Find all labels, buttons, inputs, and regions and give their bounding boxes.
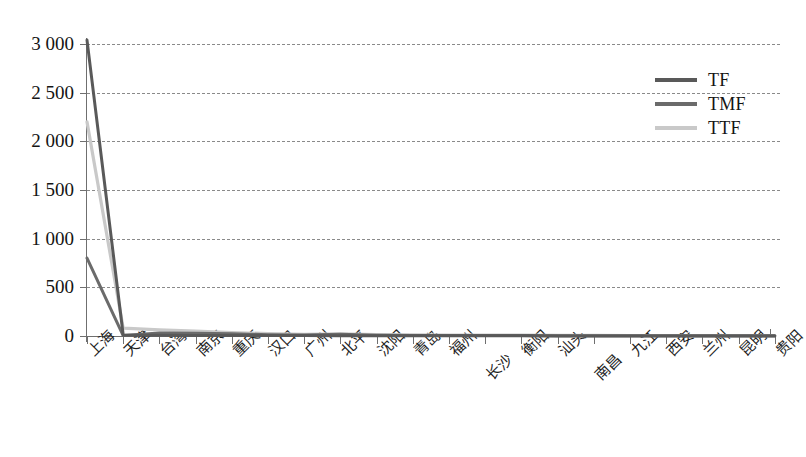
legend-item-tf[interactable]: TF bbox=[655, 68, 790, 92]
legend-item-ttf[interactable]: TTF bbox=[655, 116, 790, 140]
legend-swatch-icon bbox=[655, 126, 697, 130]
legend-swatch-icon bbox=[655, 102, 697, 106]
legend-label: TTF bbox=[708, 119, 741, 137]
series-line-ttf bbox=[87, 122, 775, 336]
legend-item-tmf[interactable]: TMF bbox=[655, 92, 790, 116]
legend-label: TF bbox=[708, 71, 730, 89]
series-line-tmf bbox=[87, 258, 775, 336]
legend-label: TMF bbox=[708, 95, 746, 113]
legend-swatch-icon bbox=[655, 78, 697, 82]
chart-legend: TFTMFTTF bbox=[655, 68, 790, 140]
